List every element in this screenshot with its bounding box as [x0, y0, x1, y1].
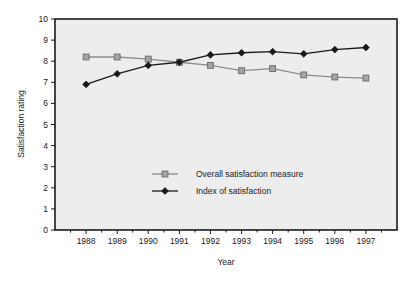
satisfaction-line-chart: 012345678910 198819891990199119921993199…: [0, 0, 417, 283]
data-point-marker: [208, 63, 214, 69]
data-point-marker: [332, 74, 338, 80]
x-axis-title: Year: [217, 257, 234, 267]
y-tick-label: 3: [43, 162, 48, 172]
legend-label-2: Index of satisfaction: [196, 186, 271, 196]
data-point-marker: [145, 56, 151, 62]
x-tick-label: 1996: [325, 236, 344, 246]
x-tick-label: 1992: [201, 236, 220, 246]
x-axis-tick-labels: 1988198919901991199219931994199519961997: [77, 236, 376, 246]
y-axis-title: Satisfaction rating: [16, 90, 26, 158]
y-tick-label: 5: [43, 120, 48, 130]
y-axis-tick-labels: 012345678910: [39, 14, 49, 235]
x-tick-label: 1989: [108, 236, 127, 246]
legend-label-1: Overall satisfaction measure: [196, 169, 304, 179]
plot-area-background: [55, 19, 397, 230]
data-point-marker: [301, 72, 307, 78]
y-tick-label: 0: [43, 225, 48, 235]
y-tick-label: 7: [43, 77, 48, 87]
legend-marker-1: [162, 171, 168, 177]
x-tick-label: 1995: [294, 236, 313, 246]
data-point-marker: [270, 66, 276, 72]
x-tick-label: 1991: [170, 236, 189, 246]
x-tick-label: 1997: [356, 236, 375, 246]
y-tick-label: 6: [43, 98, 48, 108]
data-point-marker: [239, 68, 245, 74]
x-tick-label: 1990: [139, 236, 158, 246]
data-point-marker: [114, 54, 120, 60]
y-tick-label: 2: [43, 183, 48, 193]
y-tick-label: 10: [39, 14, 49, 24]
y-tick-label: 1: [43, 204, 48, 214]
data-point-marker: [83, 54, 89, 60]
y-tick-label: 8: [43, 56, 48, 66]
y-tick-label: 9: [43, 35, 48, 45]
x-tick-label: 1988: [77, 236, 96, 246]
y-tick-label: 4: [43, 141, 48, 151]
x-tick-label: 1993: [232, 236, 251, 246]
data-point-marker: [363, 75, 369, 81]
x-tick-label: 1994: [263, 236, 282, 246]
